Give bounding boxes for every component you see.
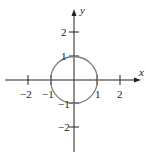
- x-axis-label: x: [139, 67, 144, 78]
- y-axis-arrow-icon: [72, 9, 77, 16]
- x-tick-label-m2: −2: [20, 89, 32, 100]
- x-tick-label-1: 1: [95, 89, 101, 100]
- plot-area: [0, 0, 146, 155]
- y-axis-label: y: [80, 5, 85, 16]
- y-tick-label-m1: −1: [58, 99, 70, 110]
- y-tick-label-m2: −2: [58, 122, 70, 133]
- x-axis-arrow-icon: [134, 78, 141, 83]
- x-tick-label-m1: −1: [42, 89, 54, 100]
- y-tick-label-1: 1: [61, 51, 67, 62]
- y-tick-label-2: 2: [61, 27, 67, 38]
- x-tick-label-2: 2: [117, 89, 123, 100]
